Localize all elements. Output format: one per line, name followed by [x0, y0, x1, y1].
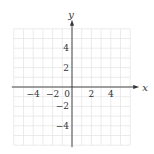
axes	[12, 20, 139, 147]
svg-text:0: 0	[64, 89, 70, 99]
svg-text:−2: −2	[46, 89, 59, 99]
svg-text:2: 2	[89, 89, 95, 99]
svg-text:−4: −4	[27, 89, 41, 99]
x-axis-label: x	[142, 82, 148, 93]
y-axis-label: y	[67, 9, 74, 20]
svg-text:−2: −2	[56, 101, 69, 111]
svg-text:−4: −4	[56, 121, 70, 131]
svg-text:4: 4	[108, 89, 114, 99]
coordinate-plane: −4−202442−2−4 x y	[0, 0, 154, 154]
svg-text:4: 4	[63, 43, 69, 53]
svg-text:2: 2	[63, 63, 69, 73]
